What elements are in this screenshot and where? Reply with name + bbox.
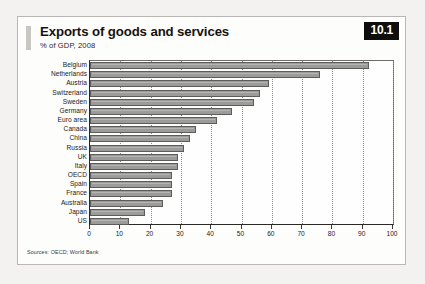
gridline [302, 61, 303, 224]
bar-oecd [90, 172, 172, 179]
category-label: Netherlands [51, 70, 87, 77]
category-label: Japan [69, 208, 87, 215]
chart-subtitle: % of GDP, 2008 [40, 41, 359, 50]
bar-highlight [92, 174, 170, 175]
bar-highlight [92, 82, 267, 83]
plot-area [89, 60, 394, 225]
category-label: OECD [68, 171, 87, 178]
bar-belgium [90, 62, 369, 69]
category-axis-labels: BelgiumNetherlandsAustriaSwitzerlandSwed… [18, 60, 89, 225]
category-label: Switzerland [52, 89, 87, 96]
axis-tick [241, 225, 242, 229]
bar-italy [90, 163, 178, 170]
gridline [393, 61, 394, 224]
gridline [363, 61, 364, 224]
bar-highlight [92, 156, 176, 157]
bar-us [90, 218, 129, 225]
bar-highlight [92, 211, 143, 212]
figure-header: Exports of goods and services % of GDP, … [40, 24, 359, 50]
bar-japan [90, 209, 145, 216]
figure-number-badge: 10.1 [364, 22, 399, 40]
bar-uk [90, 154, 178, 161]
category-label: Canada [64, 125, 87, 132]
bar-germany [90, 108, 232, 115]
category-label: Euro area [58, 116, 87, 123]
gridline [272, 61, 273, 224]
figure-card: Exports of goods and services % of GDP, … [17, 16, 406, 265]
category-label: Sweden [63, 98, 87, 105]
axis-tick [392, 225, 393, 229]
bar-highlight [92, 165, 176, 166]
axis-tick [210, 225, 211, 229]
axis-tick-label: 40 [207, 230, 214, 237]
category-label: Austria [66, 79, 87, 86]
page-title: Exports of goods and services [40, 24, 359, 39]
axis-tick [301, 225, 302, 229]
axis-tick-label: 100 [386, 230, 397, 237]
page-background: Exports of goods and services % of GDP, … [0, 0, 425, 284]
axis-tick-label: 90 [358, 230, 365, 237]
source-note: Sources: OECD; World Bank [27, 249, 99, 255]
axis-tick-label: 30 [176, 230, 183, 237]
bar-austria [90, 80, 269, 87]
axis-tick-label: 70 [297, 230, 304, 237]
category-label: Russia [67, 144, 87, 151]
bar-highlight [92, 73, 318, 74]
bar-netherlands [90, 71, 320, 78]
bar-highlight [92, 137, 188, 138]
category-label: China [70, 134, 87, 141]
bar-canada [90, 126, 196, 133]
bar-highlight [92, 101, 252, 102]
axis-tick-label: 60 [267, 230, 274, 237]
axis-tick-label: 80 [328, 230, 335, 237]
category-label: France [66, 189, 87, 196]
axis-tick [89, 225, 90, 229]
bar-highlight [92, 64, 367, 65]
bar-highlight [92, 92, 258, 93]
bar-euro-area [90, 117, 217, 124]
axis-tick [119, 225, 120, 229]
bar-australia [90, 200, 163, 207]
axis-tick-label: 0 [87, 230, 91, 237]
category-label: US [78, 217, 87, 224]
axis-tick-label: 20 [146, 230, 153, 237]
axis-tick-label: 10 [116, 230, 123, 237]
bar-russia [90, 145, 184, 152]
category-label: UK [78, 153, 87, 160]
value-axis: 0102030405060708090100 [89, 225, 394, 243]
bar-highlight [92, 119, 215, 120]
bar-spain [90, 181, 172, 188]
axis-tick [362, 225, 363, 229]
bar-highlight [92, 192, 170, 193]
bar-highlight [92, 147, 182, 148]
axis-tick [180, 225, 181, 229]
axis-tick-label: 50 [237, 230, 244, 237]
bar-highlight [92, 202, 161, 203]
bar-highlight [92, 128, 194, 129]
bar-highlight [92, 183, 170, 184]
bar-highlight [92, 220, 127, 221]
category-label: Italy [75, 162, 87, 169]
title-accent-bar [26, 26, 31, 50]
category-label: Belgium [63, 61, 87, 68]
bar-sweden [90, 99, 254, 106]
category-label: Australia [61, 199, 87, 206]
axis-tick [150, 225, 151, 229]
gridline [332, 61, 333, 224]
chart-plot-wrapper: BelgiumNetherlandsAustriaSwitzerlandSwed… [18, 60, 407, 240]
bar-china [90, 135, 190, 142]
bar-highlight [92, 110, 230, 111]
bar-switzerland [90, 90, 260, 97]
bar-france [90, 190, 172, 197]
category-label: Germany [60, 107, 87, 114]
category-label: Spain [70, 180, 87, 187]
axis-tick [271, 225, 272, 229]
axis-tick [331, 225, 332, 229]
